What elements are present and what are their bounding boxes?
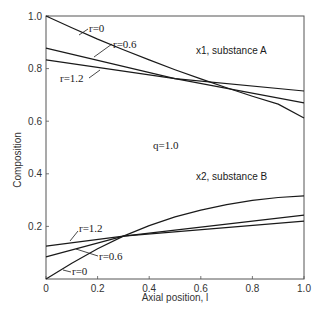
annotation-substance-b: x2, substance B (196, 171, 267, 182)
label-top-r12: r=1.2 (60, 70, 100, 84)
svg-text:r=0.6: r=0.6 (113, 38, 137, 50)
tick-labels: 00.20.40.60.81.00.20.40.60.81.0 (28, 11, 311, 295)
y-tick-label: 0.6 (28, 116, 42, 127)
svg-text:r=0: r=0 (72, 265, 88, 277)
composition-chart: 00.20.40.60.81.00.20.40.60.81.0 r=0 r=0.… (0, 0, 318, 314)
svg-text:r=0.6: r=0.6 (99, 250, 123, 262)
y-tick-label: 1.0 (28, 11, 42, 22)
curve-x1-r-1-2 (46, 60, 304, 91)
x-tick-label: 0.2 (91, 283, 105, 294)
x-axis-label: Axial position, l (142, 292, 209, 303)
svg-text:r=0: r=0 (89, 22, 105, 34)
y-tick-label: 0.8 (28, 63, 42, 74)
annotation-substance-a: x1, substance A (196, 45, 267, 56)
label-bottom-r06: r=0.6 (76, 249, 123, 262)
y-tick-label: 0.2 (28, 221, 42, 232)
annotation-parameter-q: q=1.0 (153, 139, 179, 151)
x-tick-label: 0.8 (245, 283, 259, 294)
x-tick-label: 0 (43, 283, 49, 294)
annotations: r=0 r=0.6 r=1.2 r=1.2 r=0.6 r=0 x1, subs… (60, 22, 267, 277)
svg-text:r=1.2: r=1.2 (79, 222, 103, 234)
x-tick-label: 1.0 (297, 283, 311, 294)
y-axis-label: Composition (12, 132, 23, 188)
label-bottom-r12: r=1.2 (70, 222, 103, 241)
curve-x1-r-0-6 (46, 48, 304, 103)
y-tick-label: 0.4 (28, 168, 42, 179)
svg-text:r=1.2: r=1.2 (60, 72, 84, 84)
